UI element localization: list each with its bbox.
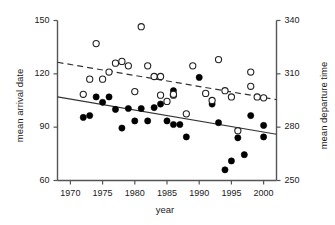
y-tick-left: 150: [26, 15, 50, 25]
open-point: [183, 111, 189, 117]
y-tick-right: 280: [285, 121, 309, 131]
open-point: [203, 90, 209, 96]
open-point: [170, 91, 176, 97]
filled-point: [177, 121, 183, 127]
open-point: [248, 69, 254, 75]
y-axis-right-title: mean departure time: [318, 51, 329, 161]
open-point: [80, 91, 86, 97]
open-point: [112, 60, 118, 66]
scatter-chart: mean arrival date mean departure time ye…: [0, 0, 335, 225]
x-tick: 1990: [184, 188, 214, 198]
open-point: [125, 63, 131, 69]
filled-point: [196, 74, 202, 80]
filled-point: [87, 113, 93, 119]
filled-point: [145, 118, 151, 124]
open-point: [235, 128, 241, 134]
open-point: [145, 63, 151, 69]
open-point: [132, 89, 138, 95]
open-point: [119, 58, 125, 64]
open-point: [93, 41, 99, 47]
filled-point: [80, 114, 86, 120]
filled-point: [261, 134, 267, 140]
y-axis-left-title: mean arrival date: [14, 51, 25, 161]
open-point: [99, 76, 105, 82]
open-point: [164, 98, 170, 104]
filled-point: [99, 99, 105, 105]
open-point: [190, 63, 196, 69]
filled-point: [241, 152, 247, 158]
filled-point: [222, 167, 228, 173]
filled-point: [106, 94, 112, 100]
open-point: [87, 76, 93, 82]
filled-point: [164, 118, 170, 124]
open-point: [215, 57, 221, 63]
x-tick: 1975: [88, 188, 118, 198]
open-point: [222, 88, 228, 94]
open-point: [157, 73, 163, 79]
open-point: [138, 24, 144, 30]
x-tick: 1985: [152, 188, 182, 198]
x-tick: 1995: [216, 188, 246, 198]
filled-point: [93, 94, 99, 100]
filled-point: [112, 106, 118, 112]
open-point: [261, 95, 267, 101]
y-tick-right: 340: [285, 15, 309, 25]
y-tick-right: 310: [285, 68, 309, 78]
x-axis-title: year: [120, 204, 210, 215]
x-tick: 1970: [55, 188, 85, 198]
filled-point: [119, 125, 125, 131]
y-tick-left: 120: [26, 68, 50, 78]
open-point: [248, 83, 254, 89]
filled-point: [228, 158, 234, 164]
x-tick: 2000: [249, 188, 279, 198]
open-point: [151, 73, 157, 79]
open-point: [228, 94, 234, 100]
filled-point: [261, 122, 267, 128]
open-point: [254, 94, 260, 100]
open-point: [106, 69, 112, 75]
filled-point: [248, 113, 254, 119]
y-tick-right: 250: [285, 175, 309, 185]
data-points: [80, 24, 267, 173]
filled-point: [157, 101, 163, 107]
open-point: [157, 92, 163, 98]
filled-point: [151, 105, 157, 111]
x-tick: 1980: [120, 188, 150, 198]
filled-point: [170, 121, 176, 127]
filled-point: [132, 118, 138, 124]
y-tick-left: 90: [26, 121, 50, 131]
filled-point: [138, 105, 144, 111]
filled-point: [183, 134, 189, 140]
y-tick-left: 60: [26, 175, 50, 185]
open-point: [209, 97, 215, 103]
filled-point: [215, 120, 221, 126]
filled-point: [125, 105, 131, 111]
filled-point: [235, 135, 241, 141]
